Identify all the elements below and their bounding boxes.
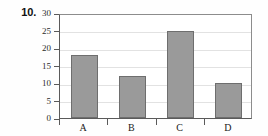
gridline	[60, 32, 251, 33]
x-tick-mark-origin	[59, 119, 60, 125]
bar-chart-figure: 10. 051015202530 ABCD	[0, 0, 268, 136]
x-tick-mark	[204, 119, 205, 125]
y-tick-label: 25	[31, 27, 51, 36]
y-tick-label: 20	[31, 44, 51, 53]
x-tick-label-c: C	[160, 122, 200, 134]
y-tick-label: 30	[31, 9, 51, 18]
gridline	[60, 50, 251, 51]
x-tick-label-b: B	[111, 122, 151, 134]
bar-b	[119, 76, 146, 118]
bar-d	[215, 83, 242, 118]
y-tick-label: 5	[31, 97, 51, 106]
y-tick-label: 10	[31, 79, 51, 88]
x-tick-mark	[107, 119, 108, 125]
plot-area	[59, 14, 252, 119]
bar-c	[167, 31, 194, 119]
y-tick-label: 15	[31, 62, 51, 71]
bar-a	[71, 55, 98, 118]
x-tick-label-d: D	[208, 122, 248, 134]
x-tick-label-a: A	[63, 122, 103, 134]
x-tick-mark	[156, 119, 157, 125]
y-tick-label: 0	[31, 114, 51, 123]
